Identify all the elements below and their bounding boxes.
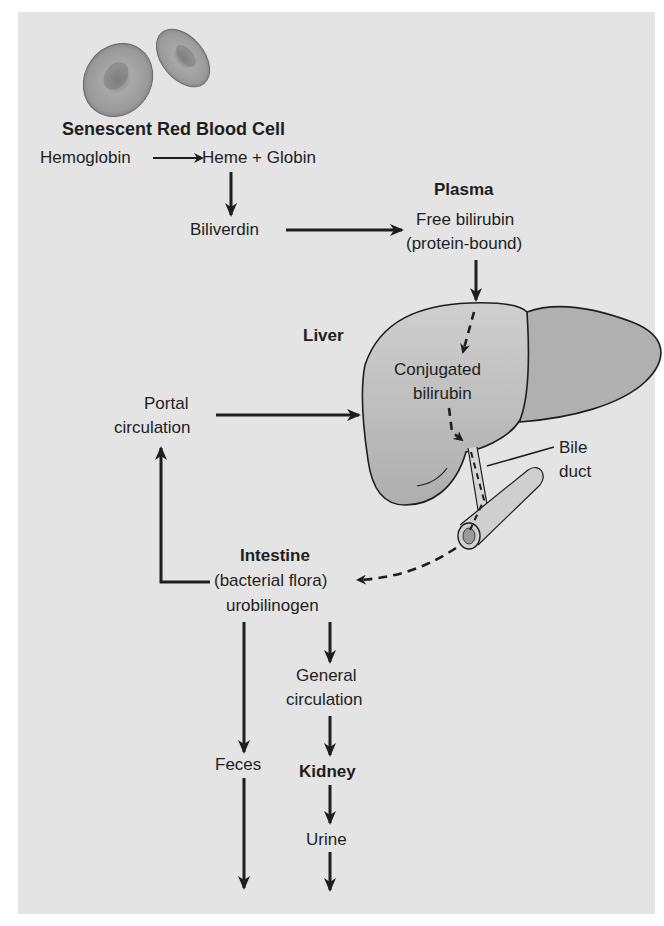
plasma-line2: (protein-bound): [406, 234, 522, 254]
plasma-line1: Free bilirubin: [416, 210, 514, 230]
feces-label: Feces: [215, 755, 261, 775]
bile-duct-line2: duct: [559, 462, 591, 482]
biliverdin-label: Biliverdin: [190, 220, 259, 240]
hemoglobin-label: Hemoglobin: [40, 148, 131, 168]
intestine-line1: (bacterial flora): [214, 571, 327, 591]
bile-duct-line1: Bile: [559, 438, 587, 458]
general-circulation-line2: circulation: [286, 690, 363, 710]
conjugated-line2: bilirubin: [413, 384, 472, 404]
portal-line1: Portal: [144, 394, 188, 414]
conjugated-line1: Conjugated: [394, 360, 481, 380]
heme-globin-label: Heme + Globin: [202, 148, 316, 168]
intestine-line2: urobilinogen: [226, 596, 319, 616]
kidney-title: Kidney: [299, 762, 356, 782]
intestine-title: Intestine: [240, 546, 310, 566]
liver-title: Liver: [303, 326, 344, 346]
plasma-title: Plasma: [434, 180, 494, 200]
liver-icon: [362, 303, 661, 549]
urine-label: Urine: [306, 830, 347, 850]
senescent-rbc-title: Senescent Red Blood Cell: [62, 119, 285, 139]
portal-line2: circulation: [114, 418, 191, 438]
red-blood-cell-icon: [69, 19, 220, 130]
general-circulation-line1: General: [296, 666, 356, 686]
